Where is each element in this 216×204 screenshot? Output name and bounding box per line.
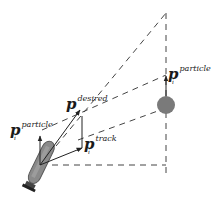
label-desired: pdesired [66,96,107,112]
label-track: ptracki [84,136,116,152]
label-particle-left: pparticlei [10,122,52,138]
target-circle-icon [157,96,175,114]
diagram-canvas: pparticlei pdesired ptracki pparticlei [0,0,216,204]
diagram-graphics [0,0,216,204]
label-particle-right: pparticlei [168,66,210,82]
